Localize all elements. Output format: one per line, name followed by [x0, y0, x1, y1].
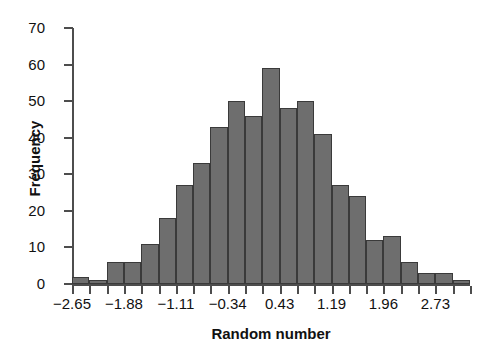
x-tick-mark [124, 286, 126, 294]
y-tick-label: 50 [9, 93, 45, 108]
y-tick-label: 30 [9, 166, 45, 181]
histogram-bar [297, 101, 314, 284]
x-tick-mark [349, 286, 351, 294]
x-tick-label: 2.73 [405, 296, 465, 313]
histogram-bar [435, 273, 452, 284]
histogram-chart: Frequency 010203040506070 −2.65−1.88−1.1… [0, 0, 493, 360]
histogram-bars [72, 28, 470, 284]
x-tick-mark [89, 286, 91, 294]
x-axis-line [72, 284, 470, 286]
x-tick-mark [228, 286, 230, 294]
y-tick-label: 70 [9, 20, 45, 35]
x-tick-mark [401, 286, 403, 294]
x-tick-mark [297, 286, 299, 294]
histogram-bar [366, 240, 383, 284]
histogram-bar [280, 108, 297, 284]
x-tick-mark [159, 286, 161, 294]
histogram-bar [210, 127, 227, 284]
histogram-bar [228, 101, 245, 284]
histogram-bar [383, 236, 400, 284]
x-tick-mark [72, 286, 74, 294]
x-tick-mark [141, 286, 143, 294]
y-tick-label: 20 [9, 203, 45, 218]
y-tick-label: 0 [9, 276, 45, 291]
y-tick-label: 40 [9, 130, 45, 145]
x-tick-mark [107, 286, 109, 294]
x-tick-mark [435, 286, 437, 294]
histogram-bar [176, 185, 193, 284]
x-tick-mark [418, 286, 420, 294]
x-tick-mark [332, 286, 334, 294]
x-tick-mark [262, 286, 264, 294]
histogram-bar [332, 185, 349, 284]
x-tick-mark [210, 286, 212, 294]
histogram-bar [72, 277, 89, 284]
x-tick-mark [383, 286, 385, 294]
x-tick-mark [453, 286, 455, 294]
x-tick-mark [193, 286, 195, 294]
histogram-bar [245, 116, 262, 284]
histogram-bar [193, 163, 210, 284]
histogram-bar [314, 134, 331, 284]
x-tick-mark [245, 286, 247, 294]
x-tick-mark [314, 286, 316, 294]
histogram-bar [159, 218, 176, 284]
histogram-bar [262, 68, 279, 284]
histogram-bar [418, 273, 435, 284]
x-tick-mark [470, 286, 472, 294]
histogram-bar [141, 244, 158, 284]
y-tick-label: 60 [9, 57, 45, 72]
y-tick-label: 10 [9, 239, 45, 254]
x-tick-mark [280, 286, 282, 294]
histogram-bar [107, 262, 124, 284]
x-tick-mark [176, 286, 178, 294]
x-tick-mark [366, 286, 368, 294]
histogram-bar [349, 196, 366, 284]
histogram-bar [401, 262, 418, 284]
histogram-bar [124, 262, 141, 284]
x-axis-title: Random number [72, 325, 470, 342]
